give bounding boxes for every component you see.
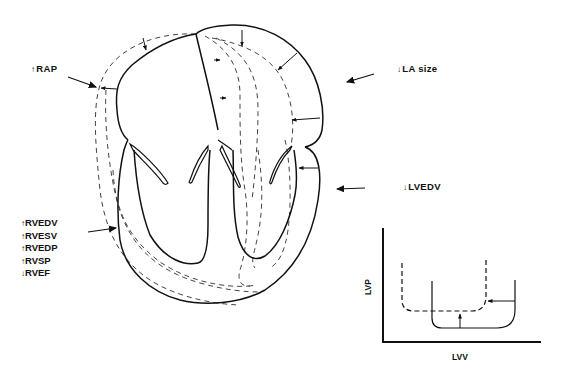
x-axis-label: LVV — [452, 352, 468, 362]
rv-item: ↓RVEF — [21, 267, 58, 280]
heart-outline — [116, 25, 322, 303]
rv-parameters-list: ↑RVEDV ↑RVESV ↑RVEDP ↑RVSP ↓RVEF — [21, 217, 58, 280]
rv-item: ↑RVEDP — [21, 242, 58, 255]
pv-loop-chart — [382, 228, 541, 342]
lvedv-label: ↓LVEDV — [403, 181, 441, 192]
heart-diagram — [0, 0, 561, 374]
baseline-loop — [432, 280, 515, 328]
rv-item: ↑RVESV — [21, 230, 58, 243]
shifted-loop — [402, 260, 486, 311]
arrow-down-icon: ↓ — [403, 183, 407, 192]
rv-item: ↑RVSP — [21, 255, 58, 268]
arrow-down-icon: ↓ — [397, 65, 401, 74]
la-size-label: ↓LA size — [397, 63, 437, 74]
y-axis-label: LVP — [363, 279, 373, 295]
rv-item: ↑RVEDV — [21, 217, 58, 230]
valve-leaflets — [130, 140, 292, 187]
arrow-up-icon: ↑ — [31, 65, 35, 74]
rap-label: ↑RAP — [31, 63, 57, 74]
